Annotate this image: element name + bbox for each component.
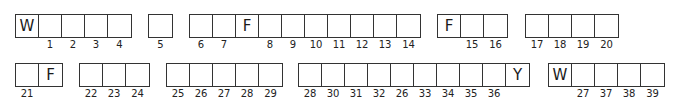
cell-letter: F: [243, 17, 252, 35]
letter-cell[interactable]: 36: [483, 64, 506, 86]
cell-number-label: 14: [402, 39, 415, 50]
letter-cell[interactable]: 3: [85, 15, 108, 37]
cell-number-label: 12: [356, 39, 369, 50]
cell-number-label: 26: [396, 88, 409, 99]
cell-number-label: 39: [646, 88, 659, 99]
cell-number-label: 6: [198, 39, 204, 50]
cell-letter: Y: [513, 66, 522, 84]
cell-number-label: 4: [116, 39, 122, 50]
word-box-group: W27373839: [548, 63, 665, 87]
letter-cell[interactable]: 24: [126, 64, 149, 86]
cell-number-label: 5: [157, 39, 163, 50]
letter-cell[interactable]: 8: [259, 15, 282, 37]
letter-cell[interactable]: 4: [108, 15, 131, 37]
cell-number-label: 8: [267, 39, 273, 50]
letter-cell[interactable]: 34: [437, 64, 460, 86]
cell-number-label: 28: [304, 88, 317, 99]
letter-cell[interactable]: 27: [213, 64, 236, 86]
cell-number-label: 2: [70, 39, 76, 50]
letter-cell[interactable]: 7: [213, 15, 236, 37]
cell-letter: F: [445, 17, 454, 35]
cell-number-label: 7: [221, 39, 227, 50]
cell-number-label: 20: [600, 39, 613, 50]
letter-cell[interactable]: 31: [345, 64, 368, 86]
cell-letter: W: [553, 66, 568, 84]
letter-cell[interactable]: 23: [103, 64, 126, 86]
cell-number-label: 37: [600, 88, 613, 99]
letter-cell[interactable]: 25: [167, 64, 190, 86]
letter-cell[interactable]: 20: [595, 15, 618, 37]
word-box-group: 283031322633343536Y: [298, 63, 530, 87]
letter-cell-filled[interactable]: F: [236, 15, 259, 37]
word-box-group: 17181920: [525, 14, 619, 38]
letter-cell[interactable]: 10: [305, 15, 328, 37]
cell-letter: W: [20, 17, 35, 35]
word-box-group: 5: [148, 14, 173, 38]
cell-number-label: 1: [47, 39, 53, 50]
letter-cell[interactable]: 12: [351, 15, 374, 37]
word-box-group: 21F: [15, 63, 63, 87]
cell-number-label: 30: [327, 88, 340, 99]
cell-number-label: 34: [442, 88, 455, 99]
cell-number-label: 22: [85, 88, 98, 99]
letter-cell[interactable]: 29: [259, 64, 282, 86]
letter-cell[interactable]: 16: [484, 15, 507, 37]
letter-cell[interactable]: 9: [282, 15, 305, 37]
letter-cell[interactable]: 13: [374, 15, 397, 37]
cell-number-label: 18: [554, 39, 567, 50]
letter-cell[interactable]: 26: [190, 64, 213, 86]
letter-cell[interactable]: 26: [391, 64, 414, 86]
cell-number-label: 31: [350, 88, 363, 99]
cell-number-label: 38: [623, 88, 636, 99]
letter-cell[interactable]: 1: [39, 15, 62, 37]
letter-cell[interactable]: 18: [549, 15, 572, 37]
cell-number-label: 16: [489, 39, 502, 50]
letter-cell-filled[interactable]: F: [39, 64, 62, 86]
cell-number-label: 24: [131, 88, 144, 99]
letter-cell[interactable]: 28: [236, 64, 259, 86]
cell-number-label: 27: [577, 88, 590, 99]
letter-cell[interactable]: 30: [322, 64, 345, 86]
letter-cell[interactable]: 27: [572, 64, 595, 86]
cell-number-label: 15: [466, 39, 479, 50]
cell-number-label: 13: [379, 39, 392, 50]
letter-cell[interactable]: 28: [299, 64, 322, 86]
word-box-group: 2526272829: [166, 63, 283, 87]
letter-cell-filled[interactable]: W: [16, 15, 39, 37]
cell-number-label: 28: [241, 88, 254, 99]
letter-cell[interactable]: 11: [328, 15, 351, 37]
letter-cell[interactable]: 37: [595, 64, 618, 86]
letter-cell-filled[interactable]: F: [438, 15, 461, 37]
cell-number-label: 17: [531, 39, 544, 50]
cell-number-label: 36: [488, 88, 501, 99]
cell-number-label: 11: [333, 39, 346, 50]
letter-cell[interactable]: 38: [618, 64, 641, 86]
cell-number-label: 32: [373, 88, 386, 99]
word-box-group: 222324: [79, 63, 150, 87]
letter-cell[interactable]: 2: [62, 15, 85, 37]
word-box-group: W1234: [15, 14, 132, 38]
cell-number-label: 25: [172, 88, 185, 99]
letter-cell[interactable]: 17: [526, 15, 549, 37]
letter-cell[interactable]: 22: [80, 64, 103, 86]
letter-cell[interactable]: 15: [461, 15, 484, 37]
cell-number-label: 26: [195, 88, 208, 99]
cell-number-label: 21: [21, 88, 34, 99]
cell-number-label: 35: [465, 88, 478, 99]
letter-cell[interactable]: 5: [149, 15, 172, 37]
cell-number-label: 29: [264, 88, 277, 99]
letter-cell[interactable]: 32: [368, 64, 391, 86]
word-box-group: 67F891011121314: [189, 14, 421, 38]
letter-cell[interactable]: 19: [572, 15, 595, 37]
letter-cell-filled[interactable]: Y: [506, 64, 529, 86]
cell-number-label: 3: [93, 39, 99, 50]
letter-cell[interactable]: 21: [16, 64, 39, 86]
letter-cell[interactable]: 35: [460, 64, 483, 86]
cell-number-label: 33: [419, 88, 432, 99]
letter-cell[interactable]: 14: [397, 15, 420, 37]
letter-cell-filled[interactable]: W: [549, 64, 572, 86]
cell-number-label: 23: [108, 88, 121, 99]
letter-cell[interactable]: 33: [414, 64, 437, 86]
letter-cell[interactable]: 39: [641, 64, 664, 86]
letter-cell[interactable]: 6: [190, 15, 213, 37]
